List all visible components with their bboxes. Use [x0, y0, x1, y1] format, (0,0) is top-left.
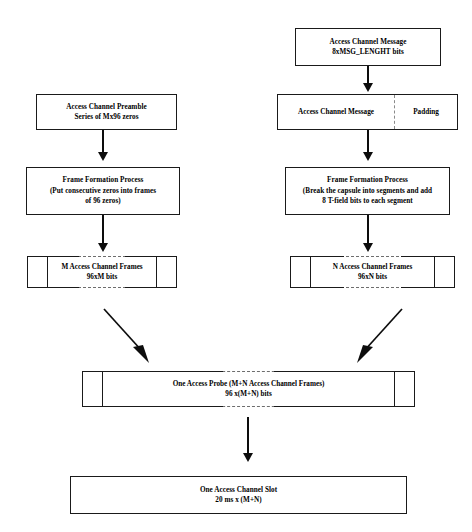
node-n-frames: N Access Channel Frames 96xN bits: [290, 256, 455, 288]
frame-formation-left-line1: Frame Formation Process: [63, 175, 144, 185]
m-frames-first-cell: [27, 256, 48, 288]
connector-message-to-padded-message: [363, 66, 373, 92]
node-access-channel-message-top: Access Channel Message 8xMSG_LENGHT bits: [295, 28, 441, 66]
m-frames-line2: 96xM bits: [87, 272, 118, 282]
connector-n-frames-to-probe: [318, 305, 408, 370]
padding-segment-label: Padding: [413, 108, 439, 116]
node-access-probe: One Access Probe (M+N Access Channel Fra…: [82, 371, 415, 407]
padding-segment: Padding: [394, 95, 457, 129]
message-segment-label: Access Channel Message: [298, 108, 374, 116]
access-channel-slot-line2: 20 ms x (M+N): [215, 495, 261, 505]
n-frames-solid-right-run: [401, 256, 434, 288]
node-access-channel-slot: One Access Channel Slot 20 ms x (M+N): [70, 476, 407, 514]
frame-formation-right-line1: Frame Formation Process: [327, 175, 408, 185]
access-channel-preamble-line1: Access Channel Preamble: [66, 102, 146, 112]
n-frames-last-cell: [434, 256, 455, 288]
access-probe-line2: 96 x(M+N) bits: [225, 389, 271, 399]
node-message-with-padding: Access Channel Message Padding: [277, 94, 458, 130]
node-access-channel-preamble: Access Channel Preamble Series of Mx96 z…: [36, 94, 177, 130]
connector-m-frames-to-probe: [100, 305, 190, 370]
connector-preamble-to-frame-formation: [98, 130, 108, 164]
access-probe-last-cell: [394, 371, 415, 407]
message-segment: Access Channel Message: [278, 95, 394, 129]
frame-formation-left-line3: of 96 zeros): [85, 196, 121, 206]
access-channel-message-top-line2: 8xMSG_LENGHT bits: [332, 47, 404, 57]
n-frames-line2: 96xN bits: [358, 272, 387, 282]
n-frames-first-cell: [290, 256, 311, 288]
frame-formation-left-line2: (Put consecutive zeros into frames: [50, 186, 156, 196]
connector-frame-formation-to-m-frames: [98, 215, 108, 255]
diagram-canvas: Access Channel Message 8xMSG_LENGHT bits…: [0, 0, 472, 532]
m-frames-last-cell: [156, 256, 177, 288]
n-frames-solid-left-run: [311, 256, 344, 288]
node-frame-formation-right: Frame Formation Process (Break the capsu…: [285, 167, 450, 215]
frame-formation-right-line3: 8 T-field bits to each segment: [322, 196, 412, 206]
access-channel-message-top-line1: Access Channel Message: [330, 37, 407, 47]
connector-padded-message-to-frame-formation: [363, 130, 373, 164]
access-channel-preamble-line2: Series of Mx96 zeros: [74, 112, 138, 122]
access-channel-slot-line1: One Access Channel Slot: [200, 485, 277, 495]
m-frames-solid-left-run: [48, 256, 79, 288]
node-m-frames: M Access Channel Frames 96xM bits: [27, 256, 177, 288]
node-frame-formation-left: Frame Formation Process (Put consecutive…: [26, 167, 180, 215]
access-probe-solid-left-run: [103, 371, 223, 407]
access-probe-first-cell: [82, 371, 103, 407]
connector-probe-to-slot: [243, 417, 253, 465]
m-frames-solid-right-run: [125, 256, 156, 288]
access-probe-solid-right-run: [274, 371, 394, 407]
connector-frame-formation-to-n-frames: [363, 215, 373, 255]
frame-formation-right-line2: (Break the capsule into segments and add: [303, 186, 432, 196]
